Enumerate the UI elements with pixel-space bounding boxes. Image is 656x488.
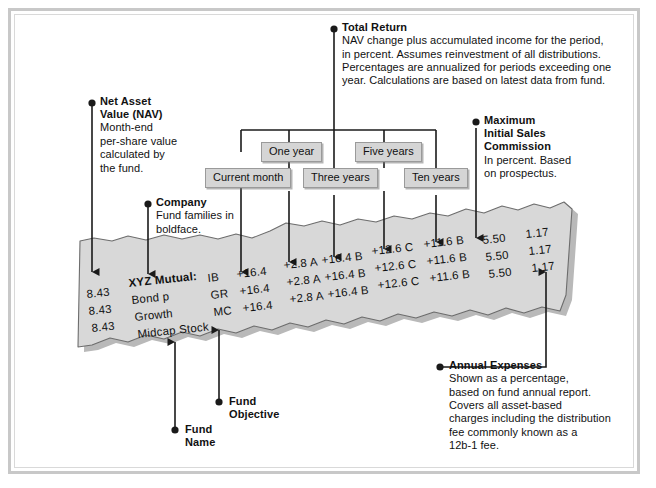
annual-expenses-body-line1: Shown as a percentage, (449, 372, 611, 385)
nav-heading-line1: Net Asset (100, 95, 177, 108)
total-return-body-line1: NAV change plus accumulated income for t… (342, 34, 611, 47)
annual-expenses-body-line4: charges including the distribution (449, 412, 611, 425)
company-heading: Company (156, 196, 234, 209)
chip-three-years[interactable]: Three years (303, 168, 378, 188)
fund-name-heading-line2: Name (185, 436, 215, 449)
callout-max-initial-sales-commission: Maximum Initial Sales Commission In perc… (484, 114, 571, 180)
commission-heading-line3: Commission (484, 140, 571, 153)
nav-body-line2: per-share value (100, 135, 177, 148)
fund-objective-bullet (215, 398, 222, 405)
nav-bullet (88, 99, 95, 106)
figure-canvas: Net Asset Value (NAV) Month-end per-shar… (0, 0, 656, 488)
total-return-body-line3: Percentages are annualized for periods e… (342, 61, 611, 74)
fund-name-heading-line1: Fund (185, 423, 215, 436)
total-return-body-line4: year. Calculations are based on latest d… (342, 74, 611, 87)
commission-heading-line1: Maximum (484, 114, 571, 127)
commission-body-line1: In percent. Based (484, 154, 571, 167)
callout-company: Company Fund families in boldface. (156, 196, 234, 236)
annual-expenses-body-line5: fee commonly known as a (449, 426, 611, 439)
fund-objective-heading-line1: Fund (229, 395, 279, 408)
annual-expenses-heading: Annual Expenses (449, 359, 611, 372)
callout-net-asset-value: Net Asset Value (NAV) Month-end per-shar… (100, 95, 177, 175)
commission-bullet (472, 118, 479, 125)
annual-expenses-body-line2: based on fund annual report. (449, 386, 611, 399)
callout-fund-objective: Fund Objective (229, 395, 279, 421)
chip-current-month[interactable]: Current month (205, 168, 291, 188)
annual-expenses-bullet (436, 363, 443, 370)
total-return-body-line2: in percent. Assumes reinvestment of all … (342, 48, 611, 61)
chip-five-years[interactable]: Five years (355, 142, 422, 162)
chip-ten-years[interactable]: Ten years (404, 168, 468, 188)
total-return-bullet (330, 25, 337, 32)
total-return-heading: Total Return (342, 21, 611, 34)
callout-fund-name: Fund Name (185, 423, 215, 449)
nav-body-line3: calculated by (100, 148, 177, 161)
callout-annual-expenses: Annual Expenses Shown as a percentage, b… (449, 359, 611, 453)
callout-total-return: Total Return NAV change plus accumulated… (342, 21, 611, 88)
commission-heading-line2: Initial Sales (484, 127, 571, 140)
fund-objective-heading-line2: Objective (229, 408, 279, 421)
company-bullet (144, 200, 151, 207)
nav-body-line4: the fund. (100, 162, 177, 175)
company-body-line1: Fund families in (156, 209, 234, 222)
commission-body-line2: on prospectus. (484, 167, 571, 180)
nav-heading-line2: Value (NAV) (100, 108, 177, 121)
fund-name-bullet (171, 426, 178, 433)
annual-expenses-body-line6: 12b-1 fee. (449, 439, 611, 452)
annual-expenses-body-line3: Covers all asset-based (449, 399, 611, 412)
company-body-line2: boldface. (156, 223, 234, 236)
chip-one-year[interactable]: One year (261, 142, 322, 162)
nav-body-line1: Month-end (100, 121, 177, 134)
